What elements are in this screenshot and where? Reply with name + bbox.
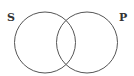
- venn-diagram: S P: [0, 0, 134, 76]
- label-p: P: [119, 11, 127, 24]
- circle-p: [57, 12, 118, 73]
- circle-s: [15, 12, 76, 73]
- label-s: S: [7, 11, 15, 24]
